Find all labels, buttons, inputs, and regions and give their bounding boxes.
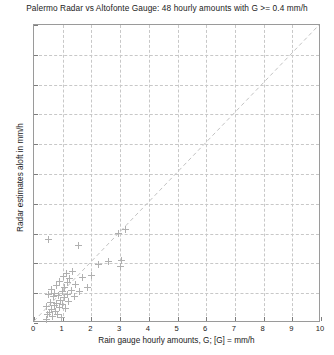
data-point-marker	[88, 272, 95, 279]
data-point-marker	[79, 274, 86, 281]
y-axis-label: Radar estimates aloft in mm/h	[16, 98, 25, 258]
data-point-marker	[58, 314, 65, 321]
chart-title: Palermo Radar vs Altofonte Gauge: 48 hou…	[0, 3, 334, 13]
x-tick-label: 7	[232, 324, 236, 333]
x-axis-label: Rain gauge hourly amounts, G; [G] = mm/h	[33, 336, 320, 345]
data-point-marker	[69, 268, 76, 275]
x-tick-label: 6	[203, 324, 207, 333]
data-point-marker	[105, 258, 112, 265]
figure: Palermo Radar vs Altofonte Gauge: 48 hou…	[0, 0, 334, 355]
data-point-marker	[117, 263, 124, 270]
data-point-marker	[95, 261, 102, 268]
x-tick-label: 0	[31, 324, 35, 333]
data-point-marker	[115, 230, 122, 237]
x-tick-mark	[321, 317, 322, 321]
scatter-series	[34, 25, 319, 321]
x-tick-label: 3	[117, 324, 121, 333]
data-point-marker	[45, 236, 52, 243]
data-point-marker	[62, 305, 69, 312]
x-tick-label: 8	[260, 324, 264, 333]
x-tick-label: 9	[289, 324, 293, 333]
data-point-marker	[76, 288, 83, 295]
data-point-marker	[118, 257, 125, 264]
x-tick-label: 10	[316, 324, 324, 333]
plot-area	[33, 24, 320, 322]
data-point-marker	[122, 226, 129, 233]
x-tick-label: 2	[88, 324, 92, 333]
x-tick-label: 5	[174, 324, 178, 333]
data-point-marker	[84, 284, 91, 291]
x-tick-label: 4	[146, 324, 150, 333]
x-tick-label: 1	[60, 324, 64, 333]
data-point-marker	[75, 242, 82, 249]
